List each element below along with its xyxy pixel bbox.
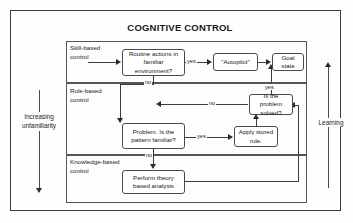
edge-label-solved-no: no xyxy=(208,100,216,106)
band-label-skill-based: Skill-based control xyxy=(70,44,100,62)
page-title: COGNITIVE CONTROL xyxy=(100,22,260,33)
connector-entry-to-routine xyxy=(88,62,117,63)
arrowhead-learning xyxy=(325,62,331,67)
edge-label-routine-yes: yes xyxy=(186,58,197,64)
connector-solved-no-left xyxy=(160,104,248,105)
node-is-problem-solved[interactable]: Is the problem solved? xyxy=(249,94,293,115)
connector-routine-no-down xyxy=(120,84,121,122)
node-perform-theory-analysis[interactable]: Perform theory based analysis xyxy=(122,170,185,194)
node-apply-stored-rule[interactable]: Apply stored rule. xyxy=(234,126,278,147)
arrowhead-solved-no-left xyxy=(156,101,161,107)
node-autopilot[interactable]: "Autopilot" xyxy=(213,53,258,71)
node-routine-actions[interactable]: Routine actions in familiar environment? xyxy=(122,49,185,76)
axis-left-line xyxy=(39,90,40,190)
axis-label-increasing-unfamiliarity: Increasing unfamiliarity xyxy=(16,112,62,131)
connector-perform-feedback-right xyxy=(185,181,298,182)
node-problem-pattern-familiar[interactable]: Problem. Is the pattern familiar? xyxy=(122,123,185,149)
connector-routine-no-stub xyxy=(153,76,154,84)
arrowhead-pattern-no-down xyxy=(150,164,156,169)
axis-label-learning: Learning xyxy=(313,118,349,127)
edge-label-pattern-yes: yes xyxy=(196,133,207,139)
arrowhead-routine-to-autopilot xyxy=(207,59,212,65)
band-label-knowledge-based: Knowledge-based control xyxy=(70,158,120,176)
node-goal-state[interactable]: Goal state xyxy=(272,53,304,71)
edge-label-pattern-no: no xyxy=(145,152,153,158)
arrowhead-increasing-unfamiliarity xyxy=(36,188,42,193)
edge-label-routine-no: no xyxy=(144,79,152,85)
connector-pattern-to-apply xyxy=(185,137,229,138)
arrowhead-entry-to-routine xyxy=(116,59,121,65)
band-label-rule-based: Rule-based control xyxy=(70,87,102,105)
connector-perform-feedback-up xyxy=(298,105,299,182)
edge-label-solved-yes: yes xyxy=(264,84,275,90)
arrowhead-routine-no-to-pattern xyxy=(117,118,123,123)
arrowhead-pattern-to-apply xyxy=(228,134,233,140)
cognitive-control-diagram: COGNITIVE CONTROL Skill-based control Ru… xyxy=(0,0,353,223)
